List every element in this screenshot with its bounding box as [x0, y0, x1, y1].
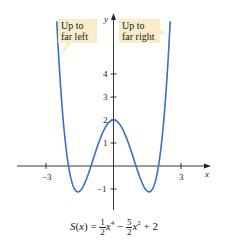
x-tick-label-neg3: −3 — [42, 172, 52, 182]
callout-right-line1: Up to — [122, 20, 145, 31]
y-tick-label-2: 2 — [103, 115, 108, 125]
formula-lhs: S(x) = — [70, 220, 99, 232]
x-axis: −3 3 x — [17, 163, 211, 182]
y-axis-arrow-icon — [111, 13, 116, 20]
y-axis-label: y — [103, 14, 108, 24]
x-tick-label-3: 3 — [179, 172, 184, 182]
x-axis-arrow-icon — [204, 164, 211, 169]
x-axis-label: x — [204, 169, 209, 179]
formula-tail: + 2 — [141, 220, 158, 232]
callout-left-line1: Up to — [61, 20, 84, 31]
y-tick-label-3: 3 — [103, 92, 108, 102]
y-axis: 4 3 2 1 −1 y — [97, 13, 117, 210]
callout-left-line2: far left — [61, 31, 88, 42]
function-graph: −3 3 x 4 3 2 1 −1 y Up to far left Up to… — [0, 0, 228, 243]
y-tick-label-4: 4 — [103, 69, 108, 79]
callout-far-left: Up to far left — [58, 19, 97, 55]
y-tick-label-1: 1 — [103, 138, 108, 148]
callout-far-right: Up to far right — [119, 19, 166, 43]
y-tick-label-neg1: −1 — [97, 184, 107, 194]
function-formula: S(x) = 12x4 − 52x2 + 2 — [0, 218, 228, 237]
formula-minus: − — [114, 220, 126, 232]
callout-right-line2: far right — [122, 31, 155, 42]
